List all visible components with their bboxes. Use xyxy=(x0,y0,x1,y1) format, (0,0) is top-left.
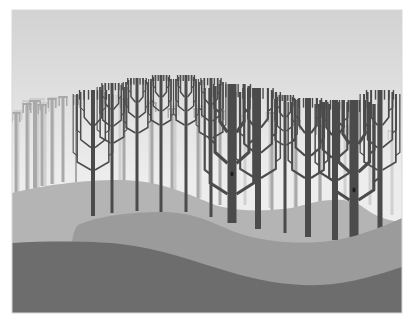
tree-knot-hole xyxy=(230,172,233,177)
tree-knot-hole xyxy=(352,188,355,193)
forest-illustration xyxy=(0,0,413,324)
forest-scene-canvas xyxy=(0,0,413,324)
